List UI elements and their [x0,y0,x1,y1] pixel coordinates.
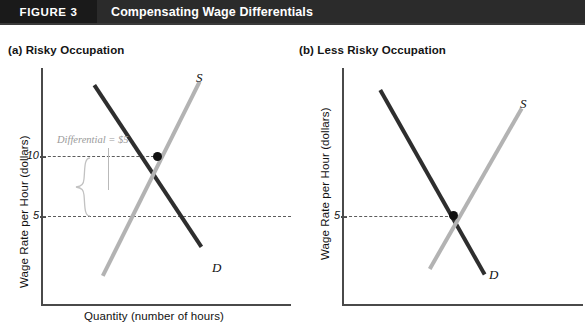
panel-b-less-risky-occupation: Wage Rate per Hour (dollars) 5 S D [292,60,585,317]
panel-b-x-axis [342,304,583,306]
panel-b-tick-5: 5 [318,209,340,221]
panel-a-annotation-stem [108,148,109,190]
panel-a-risky-occupation: Wage Rate per Hour (dollars) 10 5 S D Di… [0,60,292,317]
figure-header: FIGURE 3 Compensating Wage Differentials [0,0,585,23]
header-divider [0,23,585,25]
panel-b-supply-label: S [520,96,527,112]
panel-a-differential-brace [74,157,92,217]
panel-b-supply-curve [428,107,523,269]
panel-a-caption: (a) Risky Occupation [8,44,124,56]
figure-number-badge: FIGURE 3 [0,0,97,23]
panel-b-dashed-line-5 [344,216,453,217]
panel-a-differential-annotation: Differential = $5 [57,134,128,145]
panel-b-demand-label: D [489,267,498,283]
panel-a-x-axis-label: Quantity (number of hours) [84,310,224,322]
panel-a-y-axis [41,68,43,306]
panel-b-caption: (b) Less Risky Occupation [299,44,446,56]
panel-b-y-axis [342,68,344,306]
panel-b-y-axis-label: Wage Rate per Hour (dollars) [319,107,331,260]
panel-b-equilibrium-point [449,211,458,220]
panel-a-tick-5: 5 [17,209,39,221]
panel-a-supply-label: S [196,70,203,86]
panel-a-tick-10: 10 [17,149,39,161]
panel-a-x-axis [41,304,291,306]
panel-b-demand-curve [379,89,487,275]
panel-a-supply-curve [101,81,201,277]
panel-a-equilibrium-point [153,152,162,161]
panel-a-demand-label: D [212,260,221,276]
figure-title: Compensating Wage Differentials [111,0,313,23]
figure-number-label: FIGURE 3 [0,0,97,23]
